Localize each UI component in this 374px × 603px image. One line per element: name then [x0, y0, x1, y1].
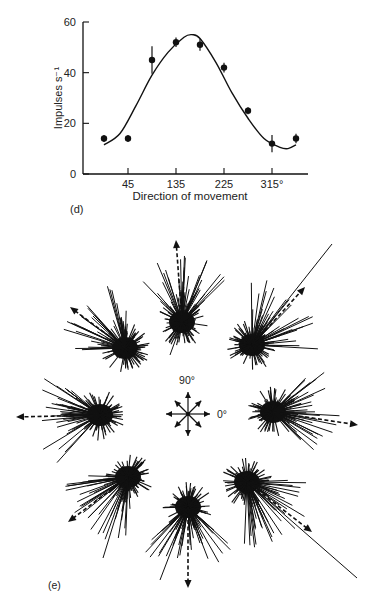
arrowhead-icon	[70, 307, 79, 315]
panel-label-d: (d)	[70, 203, 83, 215]
arrowhead-icon	[350, 420, 358, 427]
x-tick-label: 315°	[261, 178, 284, 190]
y-axis-label: Impulses s⁻¹	[52, 67, 64, 130]
compass-icon	[166, 392, 210, 436]
cluster-225	[65, 455, 151, 539]
x-axis-ticks: 45135225315°	[122, 168, 284, 190]
x-tick-label: 45	[122, 178, 134, 190]
arrowhead-icon	[173, 240, 180, 248]
x-tick-label: 135	[167, 178, 185, 190]
y-tick-label: 40	[64, 67, 76, 79]
fit-curve	[104, 35, 296, 149]
data-point	[149, 46, 155, 73]
data-point	[293, 134, 299, 144]
vector-raster-diagram: 90° 0° (e)	[16, 240, 358, 591]
cluster-135	[64, 286, 150, 372]
data-points	[101, 37, 299, 152]
compass-label-90: 90°	[179, 374, 195, 386]
tuning-curve-chart: 0204060 45135225315° Impulses s⁻¹ Direct…	[52, 16, 308, 215]
data-point	[221, 63, 227, 73]
data-point	[101, 135, 107, 142]
data-point	[245, 107, 251, 114]
cluster-45	[227, 280, 318, 369]
data-point	[125, 135, 131, 142]
panel-label-e: (e)	[48, 579, 61, 591]
x-tick-label: 225	[215, 178, 233, 190]
cluster-180	[16, 379, 123, 463]
x-axis-label: Direction of movement	[132, 190, 248, 202]
cluster-0	[248, 372, 358, 449]
cluster-315	[223, 458, 312, 547]
data-point	[269, 135, 275, 152]
compass-label-0: 0°	[217, 408, 227, 420]
arrowhead-icon	[185, 580, 192, 588]
y-tick-label: 20	[64, 117, 76, 129]
y-axis-ticks: 0204060	[64, 16, 89, 180]
y-tick-label: 0	[70, 168, 76, 180]
arrowhead-icon	[68, 514, 77, 522]
cluster-90	[143, 240, 224, 345]
arrowhead-icon	[16, 413, 24, 420]
cluster-270	[146, 482, 231, 588]
y-tick-label: 60	[64, 16, 76, 28]
figure: 0204060 45135225315° Impulses s⁻¹ Direct…	[0, 0, 374, 603]
axes	[83, 22, 308, 174]
